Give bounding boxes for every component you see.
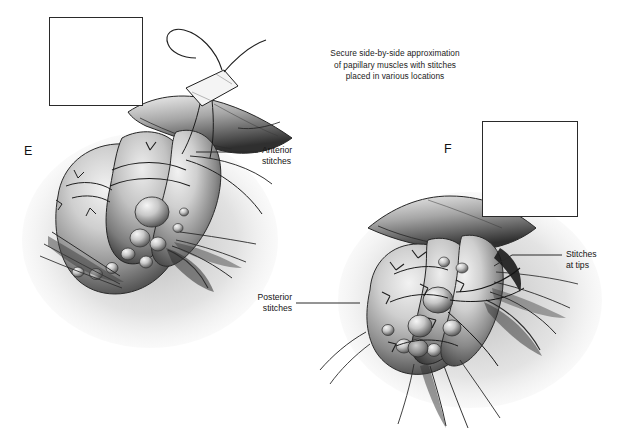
- callout-tips-line-1: Stitches: [566, 249, 597, 260]
- callout-stitches-at-tips: Stitches at tips: [566, 249, 597, 272]
- figure-root: Secure side-by-side approximation of pap…: [0, 0, 638, 433]
- panel-label-f: F: [444, 143, 452, 156]
- inset-panel-e: [49, 17, 143, 106]
- callout-anterior-stitches: Anterior stitches: [262, 145, 292, 168]
- pledget-suture: [167, 29, 266, 158]
- panel-f-illustration: [320, 192, 602, 428]
- caption-line-2: of papillary muscles with stitches: [270, 60, 520, 72]
- leader-tips: [494, 255, 562, 266]
- callout-posterior-line-2: stitches: [232, 303, 292, 314]
- figure-caption: Secure side-by-side approximation of pap…: [270, 48, 520, 83]
- callout-posterior-stitches: Posterior stitches: [232, 292, 292, 315]
- callout-tips-line-2: at tips: [566, 260, 597, 271]
- callout-anterior-line-2: stitches: [262, 156, 292, 167]
- caption-line-1: Secure side-by-side approximation: [270, 48, 520, 60]
- inset-panel-f: [482, 121, 578, 217]
- callout-anterior-line-1: Anterior: [262, 145, 292, 156]
- caption-line-3: placed in various locations: [270, 71, 520, 83]
- panel-label-e: E: [24, 145, 33, 158]
- callout-posterior-line-1: Posterior: [232, 292, 292, 303]
